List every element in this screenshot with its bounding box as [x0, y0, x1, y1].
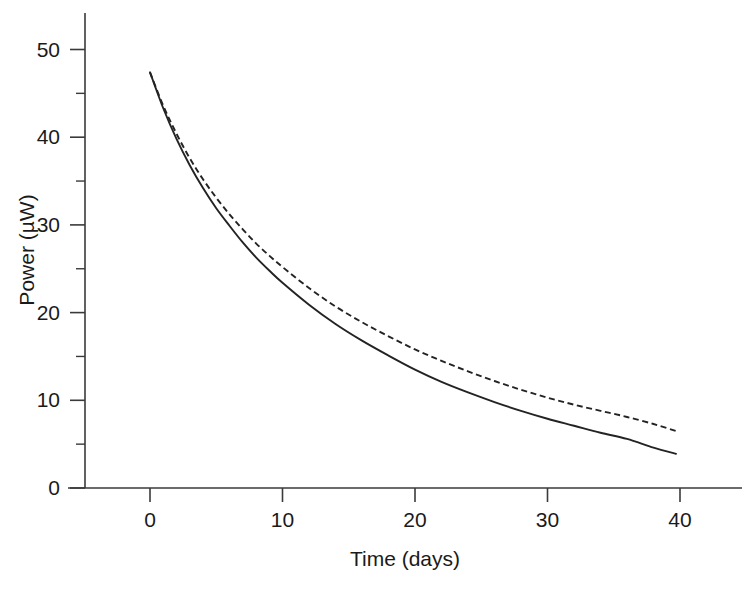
chart-figure: 01020304050 010203040 Time (days) Power …	[0, 0, 755, 591]
x-tick-label-0: 0	[144, 508, 156, 531]
x-tick-label-40: 40	[668, 508, 691, 531]
chart-background	[0, 0, 755, 591]
y-tick-label-30: 30	[37, 213, 60, 236]
y-tick-label-40: 40	[37, 125, 60, 148]
y-axis-label: Power (µW)	[15, 194, 38, 305]
x-tick-label-20: 20	[403, 508, 426, 531]
x-axis-label: Time (days)	[350, 547, 460, 570]
x-tick-label-30: 30	[536, 508, 559, 531]
y-tick-label-20: 20	[37, 301, 60, 324]
x-tick-label-10: 10	[271, 508, 294, 531]
y-tick-label-0: 0	[48, 476, 60, 499]
power-vs-time-line-chart: 01020304050 010203040 Time (days) Power …	[0, 0, 755, 591]
y-tick-label-10: 10	[37, 388, 60, 411]
y-tick-label-50: 50	[37, 38, 60, 61]
